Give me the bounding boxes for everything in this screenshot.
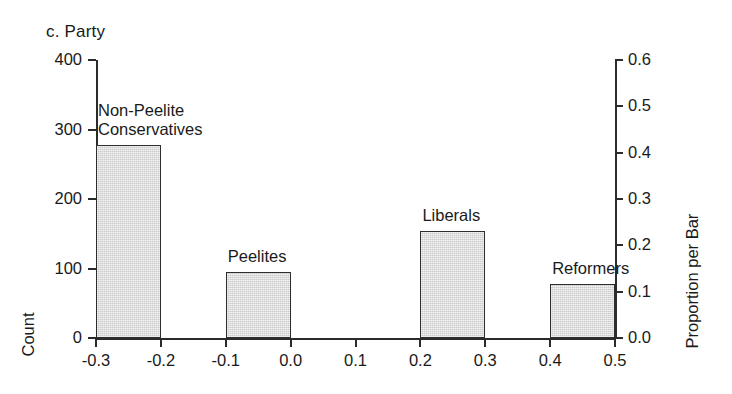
chart-figure: c. Party 01002003004000.00.10.20.30.40.5… <box>0 0 732 394</box>
chart-title: c. Party <box>46 22 105 42</box>
x-axis-tick <box>614 338 616 347</box>
y-axis-right-tick-label: 0.4 <box>628 144 651 161</box>
y-axis-left-tick <box>88 59 96 61</box>
x-axis-tick-label: -0.1 <box>194 352 258 369</box>
x-axis-tick-label: -0.2 <box>129 352 193 369</box>
y-axis-right-tick <box>615 152 623 154</box>
x-axis-tick-label: 0.3 <box>453 352 517 369</box>
bar-label: Liberals <box>422 206 480 224</box>
x-axis-tick-label: 0.0 <box>259 352 323 369</box>
y-axis-left-tick-label: 400 <box>34 51 82 68</box>
x-axis-tick <box>95 338 97 347</box>
y-axis-left-title: Count <box>20 312 37 356</box>
y-axis-right-tick <box>615 337 623 339</box>
x-axis-tick-label: 0.2 <box>388 352 452 369</box>
bar-label: Non-Peelite Conservatives <box>98 101 203 138</box>
x-axis-tick <box>225 338 227 347</box>
y-axis-left-tick-label: 200 <box>34 190 82 207</box>
y-axis-left-tick <box>88 198 96 200</box>
bar-reformers <box>550 284 615 338</box>
y-axis-left-tick <box>88 129 96 131</box>
y-axis-left-tick-label: 0 <box>34 329 82 346</box>
bar-non-peelite-conservatives <box>96 145 161 338</box>
x-axis-tick-label: 0.1 <box>324 352 388 369</box>
y-axis-right-tick <box>615 198 623 200</box>
bar-peelites <box>226 272 291 338</box>
x-axis-tick <box>549 338 551 347</box>
y-axis-right-tick <box>615 105 623 107</box>
y-axis-left-tick-label: 300 <box>34 121 82 138</box>
x-axis-tick <box>355 338 357 347</box>
x-axis-tick <box>290 338 292 347</box>
y-axis-left-tick-label: 100 <box>34 260 82 277</box>
y-axis-right-tick <box>615 244 623 246</box>
x-axis-tick <box>484 338 486 347</box>
bar-label: Reformers <box>552 259 629 277</box>
y-axis-right-tick <box>615 291 623 293</box>
y-axis-right-tick-label: 0.1 <box>628 283 651 300</box>
y-axis-right-tick-label: 0.5 <box>628 97 651 114</box>
y-axis-right-tick-label: 0.2 <box>628 236 651 253</box>
y-axis-right-tick-label: 0.3 <box>628 190 651 207</box>
x-axis-tick-label: 0.4 <box>518 352 582 369</box>
y-axis-right-tick <box>615 59 623 61</box>
x-axis-tick <box>419 338 421 347</box>
x-axis-tick <box>160 338 162 347</box>
x-axis-tick-label: -0.3 <box>64 352 128 369</box>
y-axis-right-tick-label: 0.6 <box>628 51 651 68</box>
y-axis-left-tick <box>88 268 96 270</box>
y-axis-right-title: Proportion per Bar <box>684 214 701 349</box>
bar-liberals <box>420 231 485 338</box>
y-axis-right-tick-label: 0.0 <box>628 329 651 346</box>
bar-label: Peelites <box>228 247 287 265</box>
x-axis-tick-label: 0.5 <box>583 352 647 369</box>
